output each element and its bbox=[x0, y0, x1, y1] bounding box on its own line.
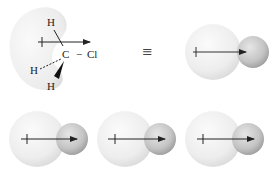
model-top-right bbox=[185, 24, 269, 80]
model-bottom-1 bbox=[9, 111, 88, 167]
atom-h-left: H bbox=[30, 64, 38, 76]
chloromethane-structure: H C − Cl H H bbox=[10, 7, 98, 92]
model-bottom-2 bbox=[97, 111, 176, 167]
bond-c-cl: − bbox=[76, 48, 82, 60]
equivalence-symbol: ≡ bbox=[142, 44, 153, 59]
model-bottom-3 bbox=[185, 111, 264, 167]
atom-h-top: H bbox=[47, 16, 55, 28]
atom-h-bottom: H bbox=[47, 80, 55, 92]
atom-carbon: C bbox=[62, 48, 69, 60]
diagram-canvas: H C − Cl H H ≡ bbox=[0, 0, 278, 175]
atom-chlorine: Cl bbox=[87, 48, 97, 60]
